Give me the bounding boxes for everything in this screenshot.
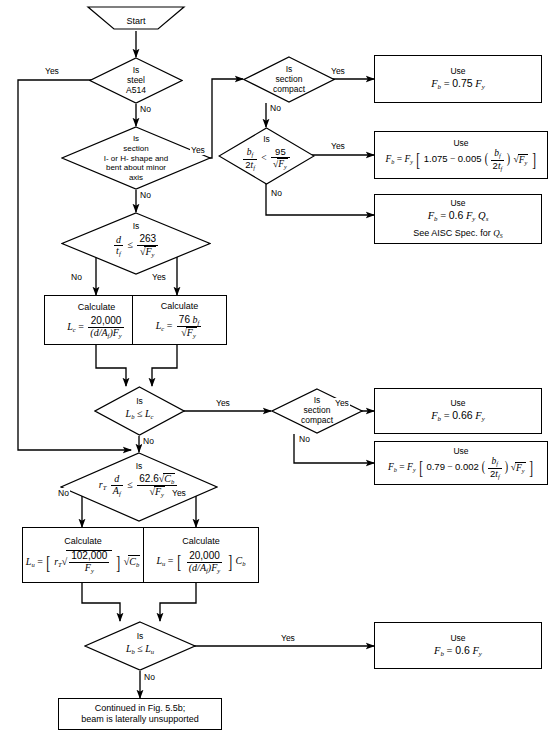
- d4-line1: Is: [286, 64, 293, 74]
- edge-label-d6-no: No: [142, 436, 155, 446]
- d6-formula: Lb ≤ Lc: [94, 408, 185, 421]
- r6-formula: Fb = 0.6 Fy: [434, 644, 482, 659]
- edge-label-d6-yes: Yes: [215, 398, 231, 408]
- start-label: Start: [126, 16, 145, 26]
- process-calc-lc-flange: Calculate Lc = 76 bf√Fy: [132, 295, 227, 345]
- d7-line3: compact: [301, 415, 333, 425]
- decision-bf-over-2tf: Is bf2tf < 95√Fy: [218, 127, 315, 185]
- d9-prefix: Is: [137, 631, 144, 641]
- d9-formula: Lb ≤ Lu: [84, 643, 196, 656]
- p4-title: Calculate: [182, 536, 220, 547]
- r4-formula: Fb = 0.66 Fy: [431, 409, 485, 424]
- decision-is-i-or-h-minor-axis: Is section I- or H- shape and bent about…: [61, 126, 211, 190]
- d1-line2: steel: [127, 75, 145, 85]
- p3-title: Calculate: [64, 536, 102, 547]
- d3-formula: dtf ≤ 263√Fy: [61, 234, 211, 258]
- d8-formula: rT dAf ≤ 62.6√Cb√Fy: [60, 473, 218, 498]
- edge-label-d7-yes: Yes: [334, 398, 350, 408]
- edge-label-d9-no: No: [143, 672, 156, 682]
- node-start: Start: [86, 5, 186, 31]
- terminator-continued: Continued in Fig. 5.5b; beam is laterall…: [58, 698, 222, 730]
- d2-line4: bent about minor: [106, 163, 166, 172]
- r3-note-text: See AISC Spec. for: [413, 228, 491, 238]
- process-calc-lu-rt: Calculate Lu = [ rT√102,000Fy ] √Cb: [22, 527, 144, 583]
- d1-line3: A514: [126, 85, 146, 95]
- result-fb-079-formula: Use Fb = Fy [ 0.79 − 0.002 (bf2tf) √Fy ]: [374, 441, 548, 485]
- edge-label-d8-yes: Yes: [171, 488, 187, 498]
- edge-label-d1-yes: Yes: [44, 66, 60, 76]
- decision-rt-d-over-af: Is rT dAf ≤ 62.6√Cb√Fy: [60, 452, 218, 522]
- p1-formula: Lc = 20,000(d/Af)Fy: [67, 316, 126, 339]
- edge-label-d8-no: No: [57, 488, 70, 498]
- r6-title: Use: [450, 633, 465, 644]
- d5-formula: bf2tf < 95√Fy: [218, 147, 315, 171]
- d3-prefix: Is: [133, 221, 140, 231]
- p1-title: Calculate: [78, 302, 116, 313]
- d7-line1: Is: [314, 395, 321, 405]
- d7-line2: section: [304, 405, 331, 415]
- p2-title: Calculate: [161, 301, 199, 312]
- decision-is-section-compact-mid: Is section compact: [271, 388, 363, 434]
- d2-line5: axis: [129, 173, 143, 182]
- r3-formula: Fb = 0.6 Fy Qs: [428, 209, 489, 224]
- d2-line3: I- or H- shape and: [104, 154, 168, 163]
- end-line2: beam is laterally unsupported: [81, 714, 199, 725]
- d1-line1: Is: [133, 65, 140, 75]
- edge-label-d5-no: No: [270, 188, 283, 198]
- decision-lb-le-lu: Is Lb ≤ Lu: [84, 621, 196, 671]
- result-fb-066-fy: Use Fb = 0.66 Fy: [374, 388, 542, 434]
- r1-formula: Fb = 0.75 Fy: [431, 77, 485, 92]
- d4-line2: section: [276, 74, 303, 84]
- edge-label-d4-no: No: [269, 103, 282, 113]
- process-calc-lu-af: Calculate Lu = [ 20,000(d/Af)Fy ] Cb: [143, 527, 259, 583]
- decision-is-section-compact-top: Is section compact: [243, 56, 335, 103]
- edge-label-d9-yes: Yes: [280, 633, 296, 643]
- p2-formula: Lc = 76 bf√Fy: [156, 315, 204, 339]
- r3-note: See AISC Spec. for QS: [413, 228, 503, 240]
- edge-label-d3-no: No: [70, 272, 83, 282]
- edge-label-d2-yes: Yes: [190, 145, 206, 155]
- d2-line1: Is: [133, 134, 139, 143]
- result-fb-1075-formula: Use Fb = Fy [ 1.075 − 0.005 (bf2tf) √Fy …: [374, 131, 548, 179]
- decision-lb-le-lc: Is Lb ≤ Lc: [94, 386, 185, 436]
- edge-label-d5-yes: Yes: [330, 141, 346, 151]
- d8-prefix: Is: [136, 461, 143, 471]
- p3-formula: Lu = [ rT√102,000Fy ] √Cb: [26, 550, 140, 574]
- edge-label-d7-no: No: [298, 434, 311, 444]
- r3-title: Use: [450, 198, 465, 209]
- r5-title: Use: [453, 446, 468, 457]
- p4-formula: Lu = [ 20,000(d/Af)Fy ] Cb: [156, 550, 245, 574]
- end-line1: Continued in Fig. 5.5b;: [95, 703, 186, 714]
- d2-line2: section: [123, 144, 148, 153]
- r1-title: Use: [450, 66, 465, 77]
- d5-prefix: Is: [263, 134, 270, 144]
- decision-d-over-tf: Is dtf ≤ 263√Fy: [61, 212, 211, 275]
- edge-label-d2-no: No: [139, 190, 152, 200]
- edge-label-d4-yes: Yes: [330, 66, 346, 76]
- r2-title: Use: [453, 138, 468, 149]
- result-fb-075-fy: Use Fb = 0.75 Fy: [374, 55, 542, 103]
- r2-formula: Fb = Fy [ 1.075 − 0.005 (bf2tf) √Fy ]: [385, 148, 536, 172]
- d4-line3: compact: [273, 84, 305, 94]
- r5-formula: Fb = Fy [ 0.79 − 0.002 (bf2tf) √Fy ]: [388, 456, 534, 480]
- result-fb-06-fy-qs: Use Fb = 0.6 Fy Qs See AISC Spec. for QS: [374, 194, 542, 244]
- edge-label-d3-yes: Yes: [151, 272, 167, 282]
- result-fb-06-fy: Use Fb = 0.6 Fy: [374, 622, 542, 669]
- decision-is-steel-a514: Is steel A514: [89, 57, 183, 104]
- d6-prefix: Is: [136, 396, 143, 406]
- r4-title: Use: [450, 398, 465, 409]
- edge-label-d1-no: No: [139, 104, 152, 114]
